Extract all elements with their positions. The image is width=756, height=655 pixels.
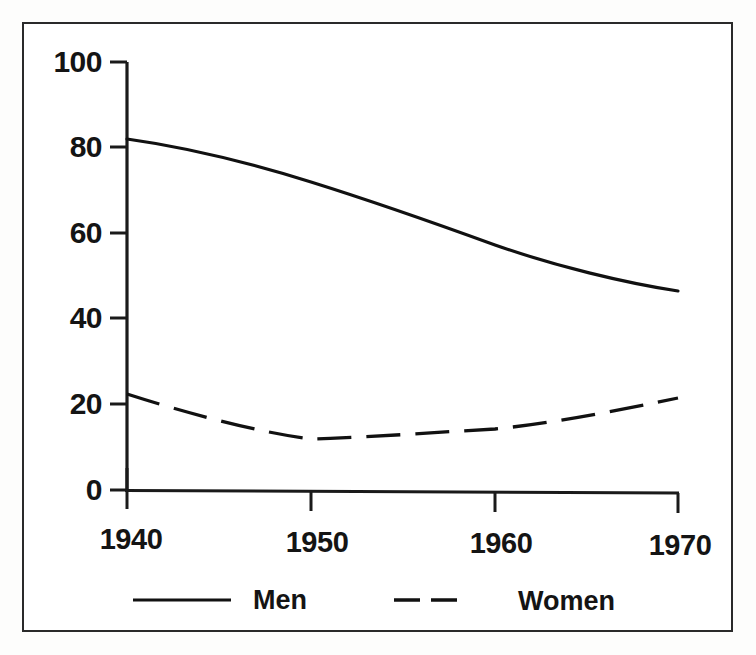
figure-container: 100 80 60 40 20 0 1940 1950 1960 1970 Me… [0, 0, 756, 655]
y-tick-label-60: 60 [34, 216, 102, 250]
y-tick-label-80: 80 [34, 130, 102, 164]
x-tick-label-1960: 1960 [470, 527, 533, 560]
y-tick-label-40: 40 [34, 301, 102, 335]
legend-label-men: Men [253, 585, 307, 616]
series-line-men [127, 139, 678, 291]
line-chart-plot [0, 0, 756, 655]
legend-label-women: Women [518, 586, 615, 617]
series-line-women [127, 394, 678, 439]
x-axis-line [125, 491, 679, 494]
y-tick-label-0: 0 [34, 473, 102, 507]
y-tick-label-100: 100 [34, 45, 102, 79]
y-tick-marks [110, 62, 127, 490]
x-tick-label-1950: 1950 [286, 526, 349, 559]
x-tick-label-1970: 1970 [649, 529, 712, 562]
y-tick-label-20: 20 [34, 387, 102, 421]
x-tick-label-1940: 1940 [100, 523, 163, 556]
